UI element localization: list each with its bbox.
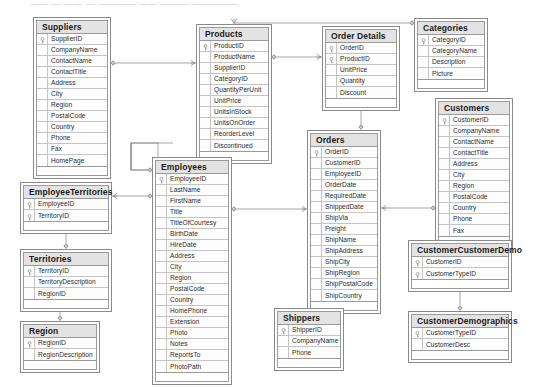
column-row[interactable]: ShipRegion — [311, 268, 377, 279]
column-row-pk[interactable]: TerritoryID — [24, 266, 108, 277]
column-row[interactable]: BirthDate — [156, 229, 228, 240]
column-row[interactable]: City — [156, 262, 228, 273]
column-row[interactable]: Region — [156, 273, 228, 284]
column-row[interactable]: Address — [37, 78, 107, 89]
column-row[interactable]: ContactTitle — [37, 67, 107, 78]
column-row[interactable]: ShipPostalCode — [311, 279, 377, 290]
entity-region[interactable]: RegionRegionIDRegionDescription — [20, 321, 100, 373]
column-row[interactable]: City — [37, 89, 107, 100]
column-row[interactable]: PostalCode — [37, 111, 107, 122]
column-row[interactable]: Country — [37, 122, 107, 133]
column-row[interactable]: HireDate — [156, 240, 228, 251]
column-row[interactable]: ProductName — [200, 52, 268, 63]
column-row[interactable]: ShipCity — [311, 257, 377, 268]
entity-customer_customer_demo[interactable]: CustomerCustomerDemoCustomerIDCustomerTy… — [408, 240, 512, 292]
column-row[interactable]: TerritoryDescription — [24, 277, 108, 288]
entity-products[interactable]: ProductsProductIDProductNameSupplierIDCa… — [196, 24, 272, 164]
column-row[interactable]: ShipCountry — [311, 290, 377, 301]
entity-customer_demographics[interactable]: CustomerDemographicsCustomerTypeIDCustom… — [408, 311, 512, 363]
column-row[interactable]: ContactName — [439, 137, 509, 148]
column-row-pk[interactable]: CustomerTypeID — [412, 328, 508, 339]
column-row[interactable]: ShipAddress — [311, 246, 377, 257]
column-row[interactable]: CompanyName — [439, 126, 509, 137]
column-row[interactable]: CustomerDesc — [412, 339, 508, 350]
column-row[interactable]: Region — [37, 100, 107, 111]
column-row-pk[interactable]: CustomerID — [439, 115, 509, 126]
column-row[interactable]: ContactTitle — [439, 148, 509, 159]
column-row[interactable]: Picture — [418, 68, 484, 79]
column-row[interactable]: QuantityPerUnit — [200, 85, 268, 96]
column-row-pk[interactable]: OrderID — [311, 147, 377, 158]
column-row[interactable]: Freight — [311, 224, 377, 235]
column-row[interactable]: FirstName — [156, 196, 228, 207]
column-row[interactable]: UnitPrice — [326, 65, 396, 76]
column-row[interactable]: Extension — [156, 317, 228, 328]
column-row[interactable]: HomePage — [37, 155, 107, 166]
column-row[interactable]: ShippedDate — [311, 202, 377, 213]
column-row[interactable]: RegionDescription — [24, 349, 96, 360]
column-row[interactable]: SupplierID — [200, 63, 268, 74]
column-row[interactable]: Discount — [326, 87, 396, 98]
column-row[interactable]: ShipVia — [311, 213, 377, 224]
column-row[interactable]: ContactName — [37, 56, 107, 67]
column-row[interactable]: UnitsInStock — [200, 107, 268, 118]
column-row-pk[interactable]: ProductID — [200, 41, 268, 52]
column-row[interactable]: EmployeeID — [311, 169, 377, 180]
column-row[interactable]: Title — [156, 207, 228, 218]
entity-territories[interactable]: TerritoriesTerritoryIDTerritoryDescripti… — [20, 249, 112, 312]
column-row[interactable]: ReorderLevel — [200, 129, 268, 140]
column-row[interactable]: City — [439, 170, 509, 181]
column-row[interactable]: Fax — [439, 225, 509, 236]
entity-shippers[interactable]: ShippersShipperIDCompanyNamePhone — [274, 308, 344, 371]
column-row[interactable]: Phone — [37, 133, 107, 144]
column-row-pk[interactable]: EmployeeID — [156, 174, 228, 185]
column-row[interactable]: TitleOfCourtesy — [156, 218, 228, 229]
entity-suppliers[interactable]: SuppliersSupplierIDCompanyNameContactNam… — [33, 17, 111, 179]
column-row[interactable]: Address — [156, 251, 228, 262]
column-row[interactable]: HomePhone — [156, 306, 228, 317]
column-row-pk[interactable]: EmployeeID — [24, 199, 108, 210]
column-row[interactable]: Address — [439, 159, 509, 170]
column-row-pk[interactable]: CustomerID — [412, 257, 508, 268]
column-row[interactable]: Region — [439, 181, 509, 192]
entity-order_details[interactable]: Order DetailsOrderIDProductIDUnitPriceQu… — [322, 26, 400, 111]
column-row[interactable]: Notes — [156, 339, 228, 350]
column-row[interactable]: Fax — [37, 144, 107, 155]
entity-employee_territories[interactable]: EmployeeTerritoriesEmployeeIDTerritoryID — [20, 182, 112, 234]
column-row[interactable]: Country — [439, 203, 509, 214]
column-row-pk[interactable]: RegionID — [24, 338, 96, 349]
entity-categories[interactable]: CategoriesCategoryIDCategoryNameDescript… — [414, 18, 488, 92]
entity-orders[interactable]: OrdersOrderIDCustomerIDEmployeeIDOrderDa… — [307, 130, 381, 314]
column-row[interactable]: PhotoPath — [156, 361, 228, 372]
entity-customers[interactable]: CustomersCustomerIDCompanyNameContactNam… — [435, 98, 513, 249]
column-row[interactable]: ShipName — [311, 235, 377, 246]
column-row-pk[interactable]: CustomerTypeID — [412, 268, 508, 279]
column-row[interactable]: RequiredDate — [311, 191, 377, 202]
column-row[interactable]: UnitsOnOrder — [200, 118, 268, 129]
column-row[interactable]: CompanyName — [278, 336, 340, 347]
entity-employees[interactable]: EmployeesEmployeeIDLastNameFirstNameTitl… — [152, 157, 232, 385]
column-row[interactable]: Photo — [156, 328, 228, 339]
column-row[interactable]: CustomerID — [311, 158, 377, 169]
column-row-pk[interactable]: ProductID — [326, 54, 396, 65]
column-row-pk[interactable]: CategoryID — [418, 35, 484, 46]
column-row[interactable]: Country — [156, 295, 228, 306]
column-row-pk[interactable]: TerritoryID — [24, 210, 108, 221]
column-row[interactable]: PostalCode — [439, 192, 509, 203]
column-row[interactable]: Phone — [278, 347, 340, 358]
column-row[interactable]: Discontinued — [200, 140, 268, 151]
column-row[interactable]: CategoryName — [418, 46, 484, 57]
column-row-pk[interactable]: OrderID — [326, 43, 396, 54]
column-row[interactable]: LastName — [156, 185, 228, 196]
column-row[interactable]: OrderDate — [311, 180, 377, 191]
column-row[interactable]: CompanyName — [37, 45, 107, 56]
column-row[interactable]: Description — [418, 57, 484, 68]
column-row[interactable]: RegionID — [24, 288, 108, 299]
column-row[interactable]: ReportsTo — [156, 350, 228, 361]
column-row-pk[interactable]: SupplierID — [37, 34, 107, 45]
column-row[interactable]: Quantity — [326, 76, 396, 87]
column-row[interactable]: PostalCode — [156, 284, 228, 295]
column-row-pk[interactable]: ShipperID — [278, 325, 340, 336]
column-row[interactable]: Phone — [439, 214, 509, 225]
column-row[interactable]: CategoryID — [200, 74, 268, 85]
